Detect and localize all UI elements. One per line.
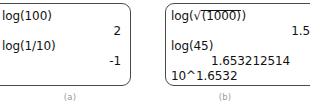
figure-calculator-screens: log(100) 2 log(1/10) -1 (a) log(√(1000))… [0, 0, 310, 112]
panel-b-line1-result: 1.5 [171, 24, 310, 39]
panel-b-line1-radicand: (1000) [201, 10, 241, 22]
panel-b-line2-input: log(45) [171, 39, 310, 54]
panel-a-line1-result: 2 [2, 24, 124, 39]
calculator-screen-a[interactable]: log(100) 2 log(1/10) -1 [0, 3, 131, 86]
panel-b-line3-input: 10^1.6532 [171, 69, 310, 84]
panel-a-caption: (a) [30, 92, 110, 102]
panel-a-line2-input: log(1/10) [2, 39, 124, 54]
panel-b-caption: (b) [185, 92, 265, 102]
panel-b-line1-input: log(√(1000)) [171, 9, 310, 24]
panel-a-line2-result: -1 [2, 54, 124, 69]
panel-b-line3-result: 44.99870339 [171, 84, 310, 86]
panel-b-line2-result: 1.653212514 [171, 54, 310, 69]
calculator-screen-b[interactable]: log(√(1000)) 1.5 log(45) 1.653212514 10^… [165, 3, 310, 86]
panel-a-line1-input: log(100) [2, 9, 124, 24]
panel-b-line1-prefix: log( [171, 9, 194, 23]
panel-b-line1-suffix: ) [241, 9, 246, 23]
radical-icon: √ [194, 9, 202, 23]
